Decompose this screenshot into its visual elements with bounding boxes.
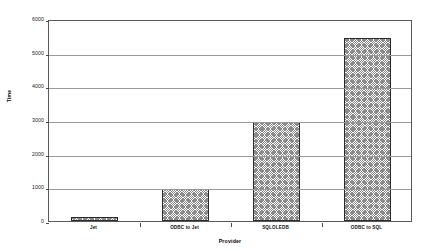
y-tick-label: 4000 (16, 83, 44, 89)
plot-area (48, 20, 412, 222)
y-tickmark-1000 (46, 189, 49, 190)
bar-sqloledb (253, 122, 300, 221)
y-tickmark-4000 (46, 88, 49, 89)
y-tick-5000: 5000 (16, 50, 44, 58)
gridline-4000 (49, 88, 411, 89)
y-tick-1000: 1000 (16, 184, 44, 192)
gridline-3000 (49, 122, 411, 123)
bars-layer (49, 21, 411, 221)
bar-odbc-to-sql (344, 38, 391, 221)
y-tick-2000: 2000 (16, 151, 44, 159)
gridline-2000 (49, 156, 411, 157)
y-tick-4000: 4000 (16, 83, 44, 91)
bar-odbc-to-jet (162, 189, 209, 221)
y-axis-title: Time (6, 66, 12, 126)
x-axis-tick-labels: JetODBC to JetSQLOLEDBODBC to SQL (48, 225, 412, 235)
x-tick-label: Jet (48, 225, 139, 230)
y-tickmark-3000 (46, 122, 49, 123)
y-tickmark-0 (46, 223, 49, 224)
y-tick-label: 3000 (16, 117, 44, 123)
bar-jet (71, 217, 118, 221)
y-tickmark-2000 (46, 156, 49, 157)
y-tick-label: 6000 (16, 16, 44, 22)
gridline-5000 (49, 55, 411, 56)
x-tick-label: ODBC to Jet (139, 225, 230, 230)
y-axis-tick-labels: 0100020003000400050006000 (16, 0, 44, 251)
y-tick-label: 5000 (16, 50, 44, 56)
y-tick-0: 0 (16, 218, 44, 226)
x-axis-title: Provider (48, 238, 412, 244)
y-tickmark-6000 (46, 21, 49, 22)
y-tick-3000: 3000 (16, 117, 44, 125)
y-tick-6000: 6000 (16, 16, 44, 24)
y-tickmark-5000 (46, 55, 49, 56)
gridline-1000 (49, 189, 411, 190)
y-tick-label: 1000 (16, 184, 44, 190)
y-tick-label: 0 (16, 218, 44, 224)
x-tick-label: ODBC to SQL (321, 225, 412, 230)
x-tick-label: SQLOLEDB (230, 225, 321, 230)
y-tick-label: 2000 (16, 151, 44, 157)
bar-chart: Time 0100020003000400050006000 JetODBC t… (0, 0, 430, 251)
